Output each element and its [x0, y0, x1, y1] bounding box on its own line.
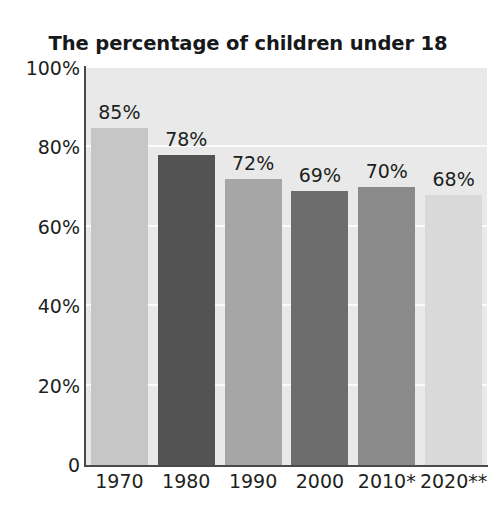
bar-chart-figure: The percentage of children under 18 who …	[0, 0, 496, 513]
bar[interactable]	[91, 128, 148, 465]
bar[interactable]	[358, 187, 415, 465]
bar[interactable]	[291, 191, 348, 465]
y-axis-tick-label: 20%	[4, 375, 80, 397]
y-axis-tick-labels: 100%80%60%40%20%0	[0, 0, 80, 513]
y-axis-tick-label: 80%	[4, 136, 80, 158]
chart-title-line-1: The percentage of children under 18	[48, 32, 447, 55]
y-axis-line	[84, 66, 86, 467]
x-axis-tick-label: 2020**	[409, 470, 496, 492]
bar[interactable]	[225, 179, 282, 465]
y-axis-tick-label: 0	[4, 454, 80, 476]
bar-value-label: 78%	[144, 128, 229, 150]
x-axis-line	[84, 465, 488, 467]
bar[interactable]	[158, 155, 215, 465]
y-axis-tick-label: 100%	[4, 57, 80, 79]
y-axis-tick-label: 40%	[4, 295, 80, 317]
bar-value-label: 68%	[411, 168, 496, 190]
bar-value-label: 85%	[77, 101, 162, 123]
bar[interactable]	[425, 195, 482, 465]
y-axis-tick-label: 60%	[4, 216, 80, 238]
